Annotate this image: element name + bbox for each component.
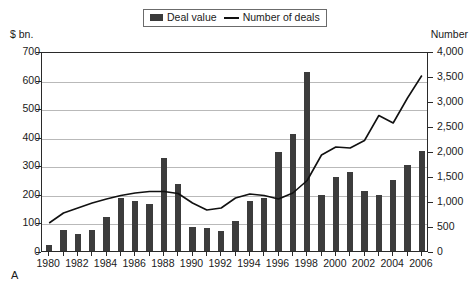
x-axis-tick [220,252,221,256]
x-axis-tick [349,252,350,256]
x-axis-tick [249,252,250,256]
legend-label-number-of-deals: Number of deals [243,11,320,24]
chart-figure: Deal value Number of deals $ bn. Number … [0,0,474,291]
right-axis-tick-label: 2,000 [437,145,474,157]
x-axis-tick [77,252,78,256]
right-axis-tick [428,227,433,228]
right-axis-tick [428,252,433,253]
line-path [49,76,422,224]
x-axis-tick [378,252,379,256]
chart-legend: Deal value Number of deals [143,9,327,27]
x-axis-tick [106,252,107,256]
right-axis-tick [428,52,433,53]
line-series-number-of-deals [42,53,429,253]
line-swatch-icon [224,17,239,19]
left-axis-tick-label: 400 [0,131,40,143]
left-axis-tick-label: 0 [0,245,40,257]
right-axis-tick-label: 3,000 [437,95,474,107]
x-axis-tick [335,252,336,256]
legend-item-deal-value: Deal value [150,11,217,24]
x-axis-tick [177,252,178,256]
left-axis-tick-label: 700 [0,45,40,57]
right-axis-tick [428,152,433,153]
right-axis-tick-label: 4,000 [437,45,474,57]
right-axis-tick-label: 500 [437,220,474,232]
left-axis-tick-label: 300 [0,159,40,171]
x-axis-tick [134,252,135,256]
right-axis-tick-label: 0 [437,245,474,257]
x-axis-tick [192,252,193,256]
x-axis-tick [48,252,49,256]
x-axis-tick [292,252,293,256]
right-axis-tick-label: 1,000 [437,195,474,207]
x-axis-tick [278,252,279,256]
x-axis-tick [364,252,365,256]
left-axis-unit-label: $ bn. [10,28,33,40]
bar-swatch-icon [150,14,163,21]
left-axis-tick-label: 100 [0,216,40,228]
right-axis-tick [428,177,433,178]
x-axis-tick [407,252,408,256]
right-axis-tick [428,127,433,128]
x-axis-tick [421,252,422,256]
x-axis-tick [63,252,64,256]
right-axis-tick [428,77,433,78]
x-axis-tick [163,252,164,256]
legend-label-deal-value: Deal value [167,11,217,24]
left-axis-tick-label: 200 [0,188,40,200]
panel-letter: A [11,269,18,281]
x-axis-tick [321,252,322,256]
x-axis-tick [263,252,264,256]
x-axis-tick [235,252,236,256]
x-axis-tick [306,252,307,256]
x-axis-tick [392,252,393,256]
plot-area [41,52,428,252]
x-axis-tick [149,252,150,256]
left-axis-tick-label: 500 [0,102,40,114]
right-axis-tick-label: 2,500 [437,120,474,132]
right-axis-unit-label: Number [431,28,468,40]
right-axis-tick-label: 1,500 [437,170,474,182]
x-axis-tick-label-2006: 2006 [399,257,443,269]
right-axis-tick [428,202,433,203]
left-axis-tick-label: 600 [0,74,40,86]
legend-item-number-of-deals: Number of deals [224,11,320,24]
x-axis-tick [120,252,121,256]
x-axis-tick [206,252,207,256]
right-axis-tick-label: 3,500 [437,70,474,82]
x-axis-tick [91,252,92,256]
right-axis-tick [428,102,433,103]
